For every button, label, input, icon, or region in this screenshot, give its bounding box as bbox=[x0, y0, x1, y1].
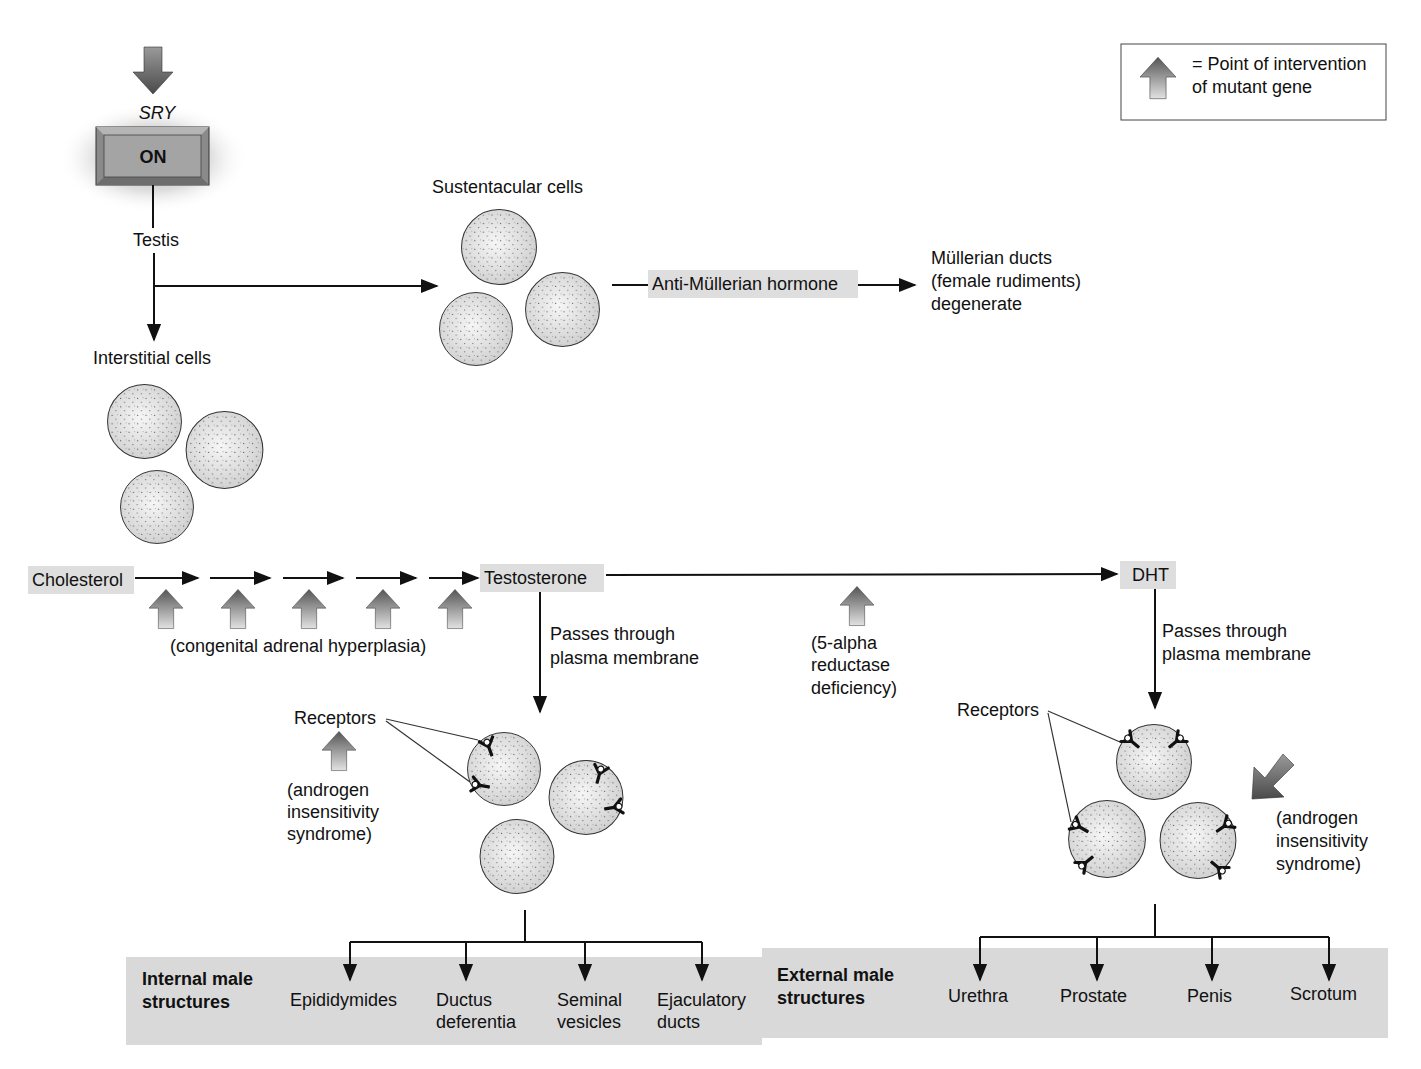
testis-label: Testis bbox=[133, 230, 179, 250]
external-item-urethra: Urethra bbox=[948, 986, 1009, 1006]
cah-label: (congenital adrenal hyperplasia) bbox=[170, 636, 426, 656]
cah-intervention-arrows bbox=[149, 589, 472, 628]
testosterone-passes-label-line2: plasma membrane bbox=[550, 648, 699, 668]
svg-text:syndrome): syndrome) bbox=[1276, 854, 1361, 874]
dht-label: DHT bbox=[1132, 565, 1169, 585]
svg-text:(androgen: (androgen bbox=[1276, 808, 1358, 828]
external-item-penis: Penis bbox=[1187, 986, 1232, 1006]
sex-differentiation-diagram: = Point of intervention of mutant gene S… bbox=[0, 0, 1421, 1069]
steroid-pathway: Cholesterol Testosterone DHT bbox=[28, 561, 1176, 594]
svg-text:deficiency): deficiency) bbox=[811, 678, 897, 698]
testosterone-passes-label-line1: Passes through bbox=[550, 624, 675, 644]
ais-intervention-arrow-icon-right bbox=[1252, 754, 1294, 799]
svg-text:(female rudiments): (female rudiments) bbox=[931, 271, 1081, 291]
svg-text:(5-alpha: (5-alpha bbox=[811, 633, 878, 653]
external-item-scrotum: Scrotum bbox=[1290, 984, 1357, 1004]
interstitial-cells bbox=[108, 385, 263, 544]
sry-activation-arrow-icon bbox=[133, 47, 173, 94]
internal-heading-line2: structures bbox=[142, 992, 230, 1012]
sustentacular-cells bbox=[440, 210, 600, 366]
target-cells-internal bbox=[468, 733, 624, 894]
internal-item-epididymides: Epididymides bbox=[290, 990, 397, 1010]
intervention-arrow-icon bbox=[149, 589, 183, 628]
svg-text:syndrome): syndrome) bbox=[287, 824, 372, 844]
svg-text:vesicles: vesicles bbox=[557, 1012, 621, 1032]
intervention-arrow-icon bbox=[366, 589, 400, 628]
internal-heading-line1: Internal male bbox=[142, 969, 253, 989]
external-item-prostate: Prostate bbox=[1060, 986, 1127, 1006]
legend-text-line1: = Point of intervention bbox=[1192, 54, 1367, 74]
ais-label-right: (androgen insensitivity syndrome) bbox=[1276, 808, 1368, 874]
sustentacular-cells-label: Sustentacular cells bbox=[432, 177, 583, 197]
dht-passes-label-line1: Passes through bbox=[1162, 621, 1287, 641]
reductase-deficiency-label: (5-alpha reductase deficiency) bbox=[811, 633, 897, 698]
legend-text-line2: of mutant gene bbox=[1192, 77, 1312, 97]
sry-gene-label: SRY bbox=[139, 103, 177, 123]
sry-on-label: ON bbox=[140, 147, 167, 167]
external-heading-line2: structures bbox=[777, 988, 865, 1008]
svg-text:insensitivity: insensitivity bbox=[1276, 831, 1368, 851]
mullerian-ducts-outcome: Müllerian ducts (female rudiments) degen… bbox=[931, 248, 1081, 314]
receptors-label-right: Receptors bbox=[957, 700, 1039, 720]
internal-item-seminal-vesicles: Seminal bbox=[557, 990, 622, 1010]
internal-item-ductus-deferentia: Ductus bbox=[436, 990, 492, 1010]
dht-passes-label-line2: plasma membrane bbox=[1162, 644, 1311, 664]
svg-text:ducts: ducts bbox=[657, 1012, 700, 1032]
svg-text:insensitivity: insensitivity bbox=[287, 802, 379, 822]
legend: = Point of intervention of mutant gene bbox=[1121, 44, 1386, 120]
amh-label: Anti-Müllerian hormone bbox=[652, 274, 838, 294]
svg-text:Müllerian ducts: Müllerian ducts bbox=[931, 248, 1052, 268]
target-cells-external bbox=[1069, 725, 1236, 879]
external-heading-line1: External male bbox=[777, 965, 894, 985]
internal-item-ejaculatory-ducts: Ejaculatory bbox=[657, 990, 746, 1010]
cholesterol-label: Cholesterol bbox=[32, 570, 123, 590]
ais-intervention-arrow-icon-left bbox=[322, 731, 356, 770]
svg-text:reductase: reductase bbox=[811, 655, 890, 675]
ais-label-left: (androgen insensitivity syndrome) bbox=[287, 780, 379, 844]
svg-text:degenerate: degenerate bbox=[931, 294, 1022, 314]
testis-branches bbox=[154, 253, 437, 340]
svg-text:(androgen: (androgen bbox=[287, 780, 369, 800]
reductase-intervention-arrow-icon bbox=[840, 586, 874, 625]
intervention-arrow-icon bbox=[438, 589, 472, 628]
intervention-arrow-icon bbox=[221, 589, 255, 628]
interstitial-cells-label: Interstitial cells bbox=[93, 348, 211, 368]
svg-text:deferentia: deferentia bbox=[436, 1012, 517, 1032]
intervention-arrow-icon bbox=[292, 589, 326, 628]
testosterone-label: Testosterone bbox=[484, 568, 587, 588]
receptors-label-left: Receptors bbox=[294, 708, 376, 728]
